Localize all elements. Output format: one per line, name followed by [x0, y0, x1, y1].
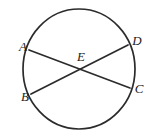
point-label-b: B [21, 89, 29, 104]
point-label-d: D [131, 33, 142, 48]
circle-chords-diagram: A D E B C [0, 0, 155, 139]
point-label-c: C [135, 81, 144, 96]
point-label-e: E [76, 49, 85, 64]
geometry-figure: A D E B C [0, 0, 155, 139]
point-label-a: A [18, 39, 27, 54]
